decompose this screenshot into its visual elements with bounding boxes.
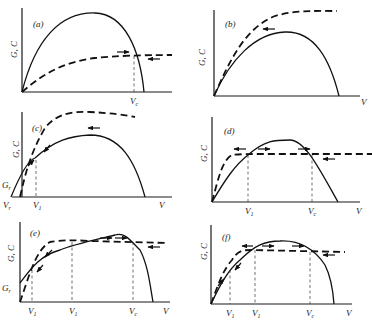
g-curve: [11, 135, 145, 197]
x-axis-label: V: [159, 200, 166, 210]
panel-d: G, C (d) V1 Vc V: [199, 117, 372, 217]
panel-f: G, C (f) V1 V1 Vc V: [199, 225, 353, 319]
y-axis-label: G, C: [11, 140, 21, 158]
v1-tick: V1: [33, 200, 42, 211]
panel-c: G, C (c) Gr Vr V1 V: [2, 112, 172, 211]
vc-tick: Vc: [130, 96, 139, 107]
v1-tick: V1: [245, 206, 254, 217]
x-axis-label: V: [163, 306, 170, 316]
c-curve: [22, 55, 172, 92]
panel-b: G, C (b) V: [197, 10, 368, 107]
gr-tick: Gr: [2, 180, 12, 191]
y-axis-label: G, C: [199, 242, 209, 260]
figure-panels: G, C (a) Vc G, C (b) V G, C (c) Gr Vr V1: [0, 0, 372, 321]
x-axis-label: V: [356, 206, 363, 216]
panel-e: G, C (e) Gr V1 V1 Vc V: [2, 222, 170, 317]
x-axis-label: V: [361, 97, 368, 107]
v1b-tick: V1: [69, 306, 78, 317]
vc-tick: Vc: [129, 306, 138, 317]
arrow-down: [44, 145, 50, 152]
panel-label: (b): [225, 19, 236, 29]
panel-label: (a): [33, 19, 44, 29]
g-curve: [212, 140, 338, 202]
y-axis-label: G, C: [6, 244, 16, 262]
v1a-tick: V1: [226, 308, 235, 319]
v1b-tick: V1: [252, 308, 261, 319]
v1a-tick: V1: [28, 306, 37, 317]
vr-tick: Vr: [3, 200, 12, 211]
panel-label: (f): [222, 232, 231, 242]
c-curve: [211, 250, 345, 304]
panel-label: (d): [224, 126, 235, 136]
arrow-down-2: [37, 265, 43, 272]
panel-label: (e): [30, 228, 40, 238]
y-axis-label: G, C: [197, 48, 207, 66]
vc-tick: Vc: [308, 206, 317, 217]
x-axis-label: V: [346, 308, 353, 318]
vc-tick: Vc: [306, 308, 315, 319]
c-curve: [212, 154, 372, 202]
gr-tick: Gr: [2, 283, 12, 294]
y-axis-label: G, C: [9, 40, 19, 58]
g-curve: [214, 32, 339, 96]
y-axis-label: G, C: [199, 144, 209, 162]
c-curve: [20, 240, 168, 302]
panel-a: G, C (a) Vc: [9, 8, 172, 107]
panel-label: (c): [32, 123, 42, 133]
